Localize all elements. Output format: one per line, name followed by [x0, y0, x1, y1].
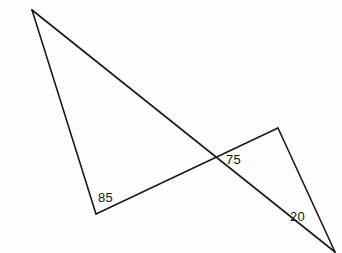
angle-label-20: 20 — [290, 210, 305, 223]
angle-label-85: 85 — [98, 191, 113, 204]
segment-left-edge — [32, 10, 96, 214]
geometry-figure: 85 75 20 — [0, 0, 342, 253]
segment-right-edge — [278, 128, 335, 252]
angle-label-75: 75 — [226, 153, 241, 166]
segment-lower-transversal — [96, 128, 278, 214]
